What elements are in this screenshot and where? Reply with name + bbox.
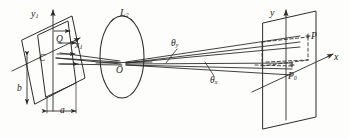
label-lens-center-o: O — [116, 66, 123, 76]
label-input-point-q: Q — [56, 35, 63, 45]
label-aperture-width-a: a — [60, 106, 65, 116]
label-angle-theta-x: θx — [210, 76, 217, 86]
label-input-center-c: C — [39, 54, 45, 64]
diagram-canvas — [0, 0, 349, 139]
label-lens-l2: L2 — [120, 8, 129, 18]
label-input-axis-y1: y1 — [31, 9, 39, 19]
label-output-point-p: P — [311, 32, 317, 42]
image-plane-outer — [263, 11, 316, 129]
angle-leader-theta-x — [205, 62, 214, 76]
label-output-axis-x: x — [334, 52, 338, 62]
label-output-axis-y: y — [270, 8, 274, 18]
rays-lens-to-image-upper — [126, 36, 300, 63]
label-input-axis-x1: x1 — [75, 40, 83, 50]
label-angle-theta-y: θy — [171, 39, 178, 49]
label-aperture-height-b: b — [17, 84, 22, 94]
label-output-point-p0: P0 — [288, 72, 297, 82]
rays-object-to-lens — [56, 53, 122, 65]
rays-lens-to-image-lower — [126, 63, 292, 75]
optical-ray-diagram: y1 Q x1 C b a L2 O θy θx y P x P0 — [0, 0, 349, 139]
lens-ellipse — [100, 16, 144, 98]
